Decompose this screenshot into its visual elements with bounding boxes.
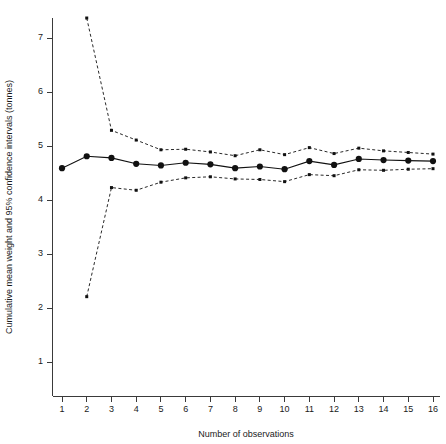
mean-data-point [356, 156, 362, 162]
y-tick-label: 3 [38, 248, 43, 258]
x-tick-label: 10 [280, 404, 290, 414]
ci-data-point [407, 168, 410, 171]
x-tick-label: 8 [233, 404, 238, 414]
mean-data-point [405, 157, 411, 163]
ci-data-point [135, 139, 138, 142]
series-3 [85, 167, 434, 298]
x-tick-label: 9 [257, 404, 262, 414]
y-tick-label: 1 [38, 356, 43, 366]
mean-data-point [282, 166, 288, 172]
ci-data-point [85, 295, 88, 298]
ci-data-point [135, 189, 138, 192]
series-2 [85, 17, 434, 158]
ci-data-point [382, 169, 385, 172]
y-tick-label: 7 [38, 32, 43, 42]
ci-data-point [283, 180, 286, 183]
mean-data-point [133, 161, 139, 167]
ci-data-point [308, 146, 311, 149]
mean-data-point [331, 162, 337, 168]
ci-data-point [159, 181, 162, 184]
x-tick-label: 5 [158, 404, 163, 414]
ci-data-point [357, 168, 360, 171]
cumulative-mean-weight-chart: 1234567 Cumulative mean weight and 95% c… [0, 0, 446, 444]
ci-line-path [87, 169, 433, 297]
x-tick-label: 14 [379, 404, 389, 414]
ci-data-point [159, 148, 162, 151]
ci-data-point [407, 151, 410, 154]
ci-data-point [333, 174, 336, 177]
mean-data-point [380, 157, 386, 163]
mean-data-point [108, 155, 114, 161]
ci-data-point [382, 149, 385, 152]
x-tick-label: 13 [354, 404, 364, 414]
mean-data-point [207, 161, 213, 167]
mean-data-point [306, 158, 312, 164]
x-tick-label: 11 [305, 404, 314, 414]
mean-data-point [232, 165, 238, 171]
ci-data-point [234, 154, 237, 157]
mean-data-point [158, 162, 164, 168]
x-axis-title: Number of observations [198, 429, 294, 439]
y-tick-group: 1234567 [38, 32, 53, 366]
ci-data-point [432, 167, 435, 170]
x-tick-label: 7 [208, 404, 213, 414]
ci-data-point [209, 175, 212, 178]
ci-data-point [110, 186, 113, 189]
ci-data-point [258, 148, 261, 151]
ci-data-point [432, 153, 435, 156]
ci-line-path [87, 18, 433, 156]
x-tick-label: 15 [403, 404, 413, 414]
x-tick-label: 3 [109, 404, 114, 414]
x-tick-group: 12345678910111213141516 [59, 397, 438, 415]
y-tick-label: 6 [38, 86, 43, 96]
y-tick-label: 2 [38, 302, 43, 312]
ci-data-point [184, 148, 187, 151]
mean-data-point [430, 158, 436, 164]
y-tick-label: 4 [38, 194, 43, 204]
ci-data-point [209, 150, 212, 153]
mean-data-point [59, 165, 65, 171]
data-series-group [59, 17, 436, 299]
x-tick-label: 2 [84, 404, 89, 414]
ci-data-point [283, 153, 286, 156]
y-axis-title: Cumulative mean weight and 95% confidenc… [4, 80, 14, 334]
y-axis: 1234567 Cumulative mean weight and 95% c… [4, 18, 53, 396]
ci-data-point [308, 173, 311, 176]
mean-data-point [257, 163, 263, 169]
y-tick-label: 5 [38, 140, 43, 150]
ci-data-point [333, 152, 336, 155]
chart-figure: 1234567 Cumulative mean weight and 95% c… [0, 0, 446, 444]
mean-data-point [84, 153, 90, 159]
mean-data-point [183, 160, 189, 166]
x-tick-label: 6 [183, 404, 188, 414]
ci-data-point [184, 176, 187, 179]
x-tick-label: 1 [59, 404, 64, 414]
ci-data-point [234, 177, 237, 180]
ci-data-point [85, 17, 88, 20]
x-axis: 12345678910111213141516 Number of observ… [53, 397, 441, 440]
mean-line-path [62, 156, 433, 169]
ci-data-point [357, 147, 360, 150]
ci-data-point [258, 178, 261, 181]
x-tick-label: 4 [134, 404, 139, 414]
x-tick-label: 16 [428, 404, 438, 414]
x-tick-label: 12 [329, 404, 339, 414]
series-1 [59, 153, 436, 172]
ci-data-point [110, 129, 113, 132]
